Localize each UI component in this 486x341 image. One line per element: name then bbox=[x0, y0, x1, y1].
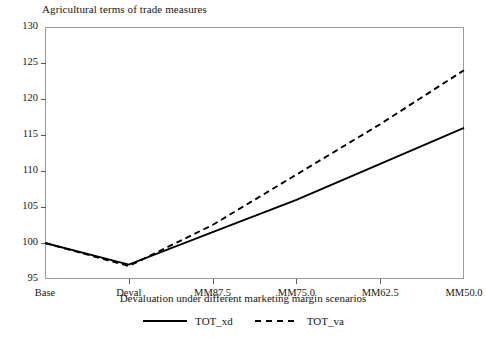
legend-line-sample-dashed bbox=[254, 317, 300, 325]
x-tick-mark bbox=[296, 279, 297, 284]
x-tick-mark bbox=[380, 279, 381, 284]
series-layer bbox=[45, 27, 464, 279]
y-tick-label: 105 bbox=[4, 200, 38, 211]
x-tick-mark bbox=[213, 279, 214, 284]
chart-title: Agricultural terms of trade measures bbox=[42, 3, 207, 15]
y-tick-label: 120 bbox=[4, 92, 38, 103]
legend-label: TOT_xd bbox=[195, 315, 233, 327]
chart-legend: TOT_xdTOT_va bbox=[0, 315, 486, 327]
y-tick-label: 125 bbox=[4, 56, 38, 67]
legend-item-tot_va: TOT_va bbox=[254, 315, 344, 327]
chart-figure: Agricultural terms of trade measures 951… bbox=[0, 0, 486, 341]
y-tick-label: 100 bbox=[4, 236, 38, 247]
legend-line-sample-solid bbox=[142, 317, 188, 325]
y-tick-label: 110 bbox=[4, 164, 38, 175]
y-tick-label: 130 bbox=[4, 20, 38, 31]
series-line-tot_xd bbox=[45, 128, 464, 265]
x-tick-mark bbox=[129, 279, 130, 284]
x-axis-title: Devaluation under different marketing ma… bbox=[0, 292, 486, 304]
legend-item-tot_xd: TOT_xd bbox=[142, 315, 233, 327]
series-line-tot_va bbox=[45, 70, 464, 266]
y-tick-label: 95 bbox=[4, 272, 38, 283]
y-tick-label: 115 bbox=[4, 128, 38, 139]
legend-label: TOT_va bbox=[307, 315, 344, 327]
